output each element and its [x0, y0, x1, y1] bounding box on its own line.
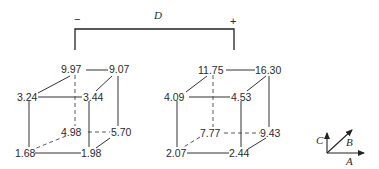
- cube-low-front-bottom-left: 1.68: [15, 147, 36, 159]
- factorial-cube-diagram: − D + 9.97 9.07 3.24 3.44 4.98 5.70 1.68…: [0, 0, 379, 169]
- cube-high-front-top-right: 4.53: [231, 91, 252, 103]
- cube-high-front-bottom-right: 2.44: [229, 147, 250, 159]
- cube-high-front-bottom-left: 2.07: [166, 147, 187, 159]
- cube-d-high: 11.75 16.30 4.09 4.53 7.77 9.43 2.07 2.4…: [164, 64, 281, 159]
- axis-legend: C B A: [316, 130, 364, 167]
- axis-b-label: B: [346, 136, 353, 148]
- cube-low-back-bottom-right: 5.70: [111, 126, 132, 138]
- cube-low-back-top-right: 9.07: [109, 63, 130, 75]
- cube-d-low: 9.97 9.07 3.24 3.44 4.98 5.70 1.68 1.98: [15, 63, 132, 159]
- cube-high-back-bottom-right: 9.43: [260, 127, 281, 139]
- cube-high-back-top-right: 16.30: [255, 64, 281, 76]
- factor-d-bracket: − D +: [74, 9, 236, 50]
- low-level-sign: −: [74, 13, 80, 25]
- cube-low-back-bottom-left: 4.98: [61, 126, 82, 138]
- cube-low-back-top-left: 9.97: [61, 63, 82, 75]
- cube-low-front-bottom-right: 1.98: [81, 147, 102, 159]
- axis-a-label: A: [345, 155, 353, 167]
- cube-high-back-top-left: 11.75: [198, 64, 224, 76]
- cube-low-front-top-right: 3.44: [83, 91, 104, 103]
- high-level-sign: +: [230, 15, 236, 27]
- cube-low-front-top-left: 3.24: [17, 91, 38, 103]
- cube-high-front-top-left: 4.09: [164, 91, 185, 103]
- factor-d-label: D: [153, 9, 162, 21]
- cube-high-back-bottom-left: 7.77: [200, 127, 221, 139]
- axis-c-label: C: [316, 134, 324, 146]
